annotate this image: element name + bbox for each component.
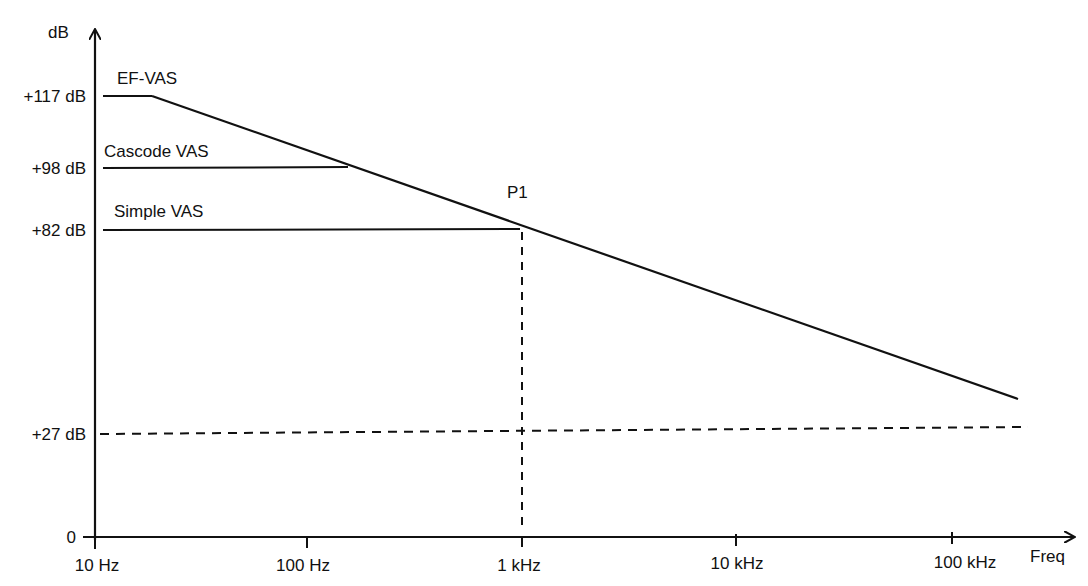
x-tick-1khz: 1 kHz <box>497 557 540 574</box>
cascode-vas-flat <box>103 167 348 168</box>
gain-slope-line <box>152 96 1018 399</box>
y-tick-98: +98 dB <box>0 160 86 177</box>
y-tick-117: +117 dB <box>0 88 86 105</box>
ref-27db-dashed <box>100 427 1028 434</box>
x-tick-100hz: 100 Hz <box>276 557 330 574</box>
y-axis-label: dB <box>48 24 69 41</box>
simple-vas-flat <box>103 229 520 230</box>
series-label-ef-vas: EF-VAS <box>117 70 177 87</box>
x-tick-10hz: 10 Hz <box>75 557 119 574</box>
point-label-p1: P1 <box>507 184 528 201</box>
x-tick-10khz: 10 kHz <box>711 555 764 572</box>
x-tick-100khz: 100 kHz <box>934 554 996 571</box>
x-axis-label: Freq <box>1030 548 1065 565</box>
y-tick-82: +82 dB <box>0 222 86 239</box>
y-tick-27: +27 dB <box>0 426 86 443</box>
series-label-simple-vas: Simple VAS <box>114 203 203 220</box>
series-label-cascode-vas: Cascode VAS <box>104 143 209 160</box>
x-ticks <box>95 532 952 549</box>
y-tick-0: 0 <box>0 529 76 546</box>
